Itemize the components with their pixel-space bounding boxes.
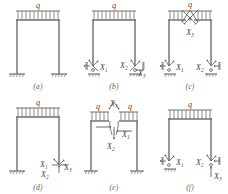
load-ticks <box>18 11 58 20</box>
release-left <box>160 155 176 172</box>
redundant-label-x3: X3 <box>185 28 194 38</box>
panel-caption-f: (f) <box>152 183 228 192</box>
panel-caption-d: (d) <box>0 183 76 192</box>
panel-f: q X1 <box>152 97 228 194</box>
load-ticks <box>92 112 137 121</box>
load-ticks <box>18 108 58 117</box>
load-label-q-left: q <box>96 102 100 111</box>
release-left <box>84 60 100 77</box>
release-left <box>160 60 176 77</box>
load-label-q: q <box>36 98 40 107</box>
panel-d: q X1 X2 X3 (d) <box>0 97 76 194</box>
load-label-q-right: q <box>128 102 132 111</box>
panel-e: q q X3 X1 X2 (e) <box>76 97 152 194</box>
load-label-q: q <box>188 100 192 109</box>
load-label-q: q <box>188 0 192 9</box>
load-ticks <box>94 11 134 20</box>
beam-cut-midspan <box>182 10 198 24</box>
structural-figure: q (a) q <box>0 0 228 194</box>
redundant-label-x2: X2 <box>119 61 128 71</box>
redundant-label-x2: X2 <box>106 142 115 152</box>
redundant-label-x1: X1 <box>99 63 108 73</box>
redundant-label-x1: X1 <box>175 63 184 73</box>
redundant-label-x1: X1 <box>175 158 184 168</box>
load-ticks <box>170 110 210 119</box>
redundant-label-x3: X3 <box>63 163 72 173</box>
panel-a: q (a) <box>0 0 76 97</box>
redundant-label-x2: X2 <box>40 170 49 180</box>
release-right <box>205 60 221 77</box>
panel-caption-c: (c) <box>152 82 228 91</box>
redundant-label-x2: X2 <box>195 63 204 73</box>
load-label-q: q <box>112 1 116 10</box>
load-label-q: q <box>36 1 40 10</box>
redundant-label-x3: X3 <box>137 69 146 79</box>
redundant-label-x1: X1 <box>39 160 48 170</box>
redundant-label-x3: X3 <box>109 99 118 109</box>
panel-caption-a: (a) <box>0 82 76 91</box>
redundant-label-x2: X2 <box>195 158 204 168</box>
panel-caption-b: (b) <box>76 82 152 91</box>
panel-caption-e: (e) <box>76 183 152 192</box>
load-ticks <box>170 11 210 20</box>
redundant-label-x1: X1 <box>121 130 130 140</box>
panel-b: q <box>76 0 152 97</box>
panel-c: q X3 <box>152 0 228 97</box>
redundant-label-x3: X3 <box>213 172 222 182</box>
